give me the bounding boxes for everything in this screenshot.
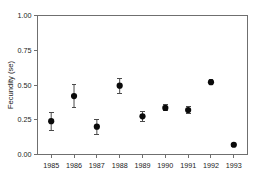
scatter-marker: [71, 93, 77, 99]
scatter-marker: [139, 113, 145, 119]
y-tick-label: 0.75: [18, 46, 32, 55]
y-tick-label: 1.00: [18, 11, 32, 20]
scatter-marker: [185, 107, 191, 113]
scatter-marker: [231, 142, 237, 148]
data-point: [185, 107, 191, 113]
y-tick-label: 0.50: [18, 81, 32, 90]
x-tick-label: 1987: [89, 161, 105, 170]
scatter-marker: [208, 79, 214, 85]
x-tick-label: 1986: [66, 161, 82, 170]
data-point: [162, 105, 168, 111]
y-axis-title: Fecundity (se): [6, 60, 15, 109]
fecundity-scatter-chart: 0.000.250.500.751.00 1985198619871988198…: [0, 0, 266, 182]
y-tick-label: 0.25: [18, 115, 32, 124]
scatter-marker: [48, 118, 54, 124]
scatter-marker: [94, 124, 100, 130]
x-tick-label: 1992: [203, 161, 219, 170]
x-tick-label: 1985: [43, 161, 59, 170]
scatter-marker: [162, 105, 168, 111]
figure-container: 0.000.250.500.751.00 1985198619871988198…: [0, 0, 266, 182]
data-point: [208, 79, 214, 85]
scatter-marker: [117, 83, 123, 89]
x-tick-label: 1988: [112, 161, 128, 170]
x-tick-label: 1990: [157, 161, 173, 170]
x-tick-label: 1991: [180, 161, 196, 170]
data-point: [231, 142, 237, 148]
x-tick-label: 1989: [135, 161, 151, 170]
y-tick-label: 0.00: [18, 150, 32, 159]
x-tick-label: 1993: [226, 161, 242, 170]
